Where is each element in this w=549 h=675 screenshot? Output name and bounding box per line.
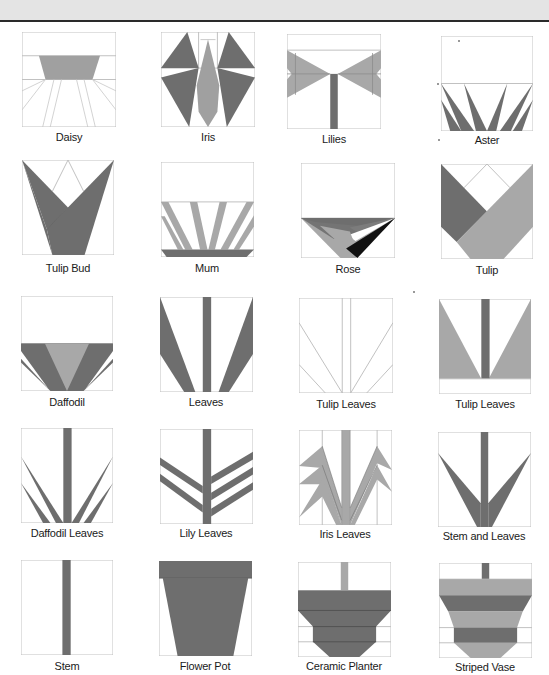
ceramic-planter-pattern-icon [298, 562, 391, 657]
stem-and-leaves-pattern-icon [438, 432, 531, 527]
tulip-pattern-icon [441, 164, 533, 259]
block-lilies [287, 34, 381, 129]
block-daffodil-leaves [21, 428, 113, 523]
block-label: Iris [143, 131, 273, 143]
block-label: Stem [2, 660, 132, 672]
mum-pattern-icon [161, 162, 254, 257]
daffodil-leaves-pattern-icon [21, 428, 113, 523]
tulip-bud-pattern-icon [22, 160, 114, 255]
block-flower-pot [159, 561, 252, 656]
block-label: Rose [283, 263, 413, 275]
block-label: Daffodil [2, 396, 132, 408]
scan-speck [438, 139, 440, 141]
block-label: Daisy [4, 131, 134, 143]
rose-pattern-icon [301, 163, 395, 258]
block-daisy [22, 32, 116, 127]
block-daffodil [21, 296, 113, 391]
scan-speck [413, 291, 415, 293]
block-leaves [160, 297, 253, 392]
tulip-leaves-outline-pattern-icon [299, 298, 393, 393]
block-label: Mum [142, 262, 272, 274]
iris-leaves-pattern-icon [299, 430, 392, 525]
block-iris [161, 32, 255, 127]
block-label: Striped Vase [420, 661, 549, 673]
block-tulip-bud [22, 160, 114, 255]
block-tulip-leaves-filled [439, 299, 531, 394]
block-label: Tulip Leaves [420, 398, 549, 410]
block-label: Tulip [422, 264, 549, 276]
block-stem-and-leaves [438, 432, 531, 527]
block-aster [441, 36, 533, 131]
iris-pattern-icon [161, 32, 255, 127]
block-label: Daffodil Leaves [2, 527, 132, 539]
striped-vase-pattern-icon [439, 563, 532, 658]
block-tulip-leaves-outline [299, 298, 393, 393]
daffodil-pattern-icon [21, 296, 113, 391]
block-label: Tulip Leaves [281, 398, 411, 410]
stem-pattern-icon [21, 560, 113, 655]
block-rose [301, 163, 395, 258]
block-label: Stem and Leaves [419, 530, 549, 542]
block-tulip [441, 164, 533, 259]
flower-pot-pattern-icon [159, 561, 252, 656]
block-label: Flower Pot [140, 660, 270, 672]
block-label: Iris Leaves [280, 528, 410, 540]
lily-leaves-pattern-icon [160, 429, 253, 524]
block-label: Ceramic Planter [279, 660, 409, 672]
block-ceramic-planter [298, 562, 391, 657]
block-label: Aster [422, 134, 549, 146]
block-label: Tulip Bud [3, 262, 133, 274]
block-label: Lily Leaves [141, 527, 271, 539]
block-mum [161, 162, 254, 257]
daisy-pattern-icon [22, 32, 116, 127]
block-iris-leaves [299, 430, 392, 525]
block-lily-leaves [160, 429, 253, 524]
leaves-pattern-icon [160, 297, 253, 392]
block-striped-vase [439, 563, 532, 658]
tulip-leaves-filled-pattern-icon [439, 299, 531, 394]
scan-speck [437, 83, 439, 85]
lilies-pattern-icon [287, 34, 381, 129]
aster-pattern-icon [441, 36, 533, 131]
block-label: Leaves [141, 396, 271, 408]
top-banner [0, 0, 549, 22]
block-label: Lilies [269, 133, 399, 145]
scan-speck [458, 40, 460, 42]
block-stem [21, 560, 113, 655]
